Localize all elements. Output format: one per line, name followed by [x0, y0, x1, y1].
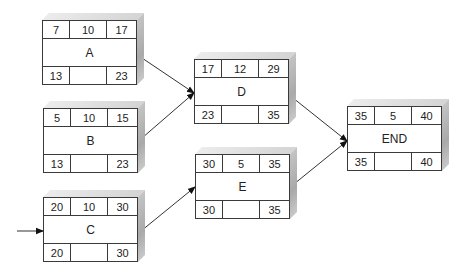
- node-label: END: [348, 125, 441, 152]
- early-finish: 35: [260, 155, 289, 173]
- node-label: C: [44, 216, 137, 243]
- early-finish: 29: [259, 60, 288, 78]
- late-finish: 30: [108, 243, 137, 261]
- slack: [222, 105, 259, 123]
- early-finish: 30: [108, 198, 137, 216]
- edge-d-to-end: [293, 98, 347, 141]
- duration: 5: [223, 155, 260, 173]
- node-label: A: [43, 39, 136, 66]
- node-b: 5 10 15 B 13 23: [43, 108, 138, 173]
- edge-a-to-d: [142, 58, 194, 93]
- early-finish: 17: [107, 21, 136, 39]
- slack: [71, 154, 108, 172]
- edge-b-to-d: [142, 93, 194, 138]
- slack: [70, 66, 107, 84]
- late-finish: 35: [259, 105, 288, 123]
- duration: 10: [71, 198, 108, 216]
- early-finish: 40: [412, 107, 441, 125]
- slack: [71, 243, 108, 261]
- slack: [375, 152, 412, 170]
- early-start: 7: [43, 21, 70, 39]
- late-start: 13: [43, 66, 70, 84]
- network-diagram: 7 10 17 A 13 23 5 10 15 B 13 23 20 10 30…: [0, 0, 462, 277]
- late-finish: 23: [107, 66, 136, 84]
- early-start: 20: [44, 198, 71, 216]
- early-start: 17: [195, 60, 222, 78]
- duration: 12: [222, 60, 259, 78]
- node-e: 30 5 35 E 30 35: [195, 154, 290, 219]
- late-start: 20: [44, 243, 71, 261]
- duration: 10: [71, 109, 108, 127]
- late-finish: 40: [412, 152, 441, 170]
- late-start: 23: [195, 105, 222, 123]
- node-label: B: [44, 127, 137, 154]
- duration: 5: [375, 107, 412, 125]
- late-start: 35: [348, 152, 375, 170]
- early-start: 5: [44, 109, 71, 127]
- early-start: 30: [196, 155, 223, 173]
- edge-c-to-e: [141, 187, 195, 231]
- node-end: 35 5 40 END 35 40: [347, 106, 442, 171]
- early-start: 35: [348, 107, 375, 125]
- early-finish: 15: [108, 109, 137, 127]
- late-finish: 23: [108, 154, 137, 172]
- slack: [223, 200, 260, 218]
- node-label: E: [196, 173, 289, 200]
- duration: 10: [70, 21, 107, 39]
- node-a: 7 10 17 A 13 23: [42, 20, 137, 85]
- late-start: 30: [196, 200, 223, 218]
- late-finish: 35: [260, 200, 289, 218]
- edge-e-to-end: [294, 141, 347, 184]
- node-d: 17 12 29 D 23 35: [194, 59, 289, 124]
- node-label: D: [195, 78, 288, 105]
- node-c: 20 10 30 C 20 30: [43, 197, 138, 262]
- late-start: 13: [44, 154, 71, 172]
